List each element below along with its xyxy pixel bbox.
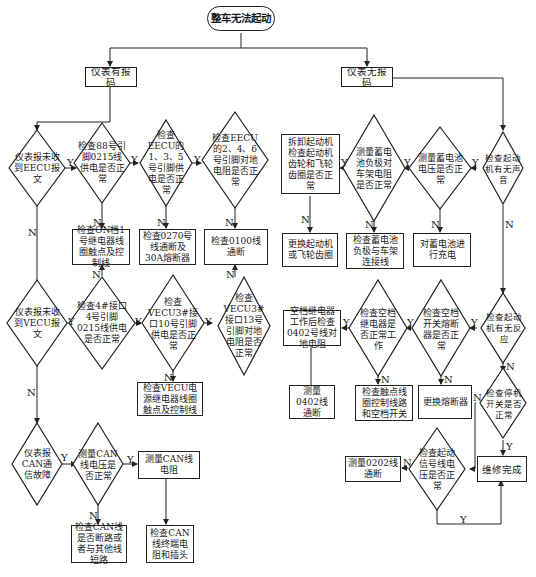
- decision-text: 检查4#接口4号引脚0215线供电是否正常: [73, 301, 131, 345]
- box-can-resistance: 测量CAN线电阻: [138, 451, 200, 479]
- edge-label-n: N: [89, 511, 98, 521]
- edge-label-y: Y: [506, 442, 513, 452]
- decision-88-pin-0215: 检查88号引脚0215线供电是否正常: [74, 138, 130, 188]
- edge-label-y: Y: [127, 455, 134, 465]
- edge-label-n: N: [92, 270, 101, 280]
- edge-label-y: Y: [61, 453, 68, 463]
- start-node-title: 整车无法起动: [207, 6, 275, 31]
- decision-text: 测量蓄电池电压是否正常: [411, 153, 469, 186]
- decision-text: 检查EECU的2、4、6号引脚对地电阻是否正常: [206, 133, 264, 188]
- box-can-terminal: 检查CAN线终端电阻和插头: [146, 525, 194, 563]
- edge-label-y: Y: [67, 158, 74, 168]
- decision-text: 检查VECU3#接口10号引脚供电是否正常: [144, 297, 202, 352]
- decision-text: 测量蓄电池负极对车架电阻是否正常: [350, 147, 398, 191]
- box-can-short: 检查CAN线是否断路或者与其他线短路: [71, 525, 127, 563]
- box-on-relay: 检查ON档1号继电器线圈触点及控制线: [72, 229, 130, 265]
- edge-label-y: Y: [205, 317, 212, 327]
- edge-label-n: N: [403, 458, 412, 468]
- decision-can-voltage: 测量CAN线电压是否正常: [74, 445, 122, 485]
- box-contact-coil: 检查触点线圈控制线路和空档开关: [355, 385, 413, 421]
- edge-label-n: N: [473, 393, 482, 403]
- box-vecu-relay: 检查VECU电源继电器线圈触点及控制线: [137, 382, 203, 416]
- box-battery-negative-link: 检查蓄电池负极与车架连接线: [346, 233, 404, 269]
- flowchart-canvas: 整车无法起动 仪表有报码 仪表无报码 仪表报未收到EECU报文 检查88号引脚0…: [0, 0, 536, 577]
- edge-label-n: N: [505, 220, 514, 230]
- decision-text: 检查起动信号线电压是否正常: [418, 448, 456, 492]
- edge-label-y: Y: [404, 158, 411, 168]
- decision-battery-voltage: 测量蓄电池电压是否正常: [411, 150, 469, 188]
- box-0100: 检查0100线通断: [204, 229, 268, 265]
- edge-label-n: N: [225, 218, 234, 228]
- decision-text: 测量CAN线电压是否正常: [74, 449, 122, 482]
- branch-no-code: 仪表无报码: [341, 67, 393, 87]
- decision-text: 检查88号引脚0215线供电是否正常: [74, 141, 130, 185]
- decision-text: 检查空档开关熔断器是否正常: [416, 308, 466, 352]
- edge-label-n: N: [444, 375, 453, 385]
- edge-label-y: Y: [194, 155, 201, 165]
- edge-label-y: Y: [407, 318, 414, 328]
- decision-vecu-pin13: 检查VECU3#接口13号引脚对地电阻是否正常: [218, 294, 270, 358]
- edge-label-n: N: [164, 373, 173, 383]
- edge-label-y: Y: [471, 318, 478, 328]
- edge-label-y: Y: [341, 158, 348, 168]
- decision-vecu-message: 仪表报未收到VECU报文: [10, 298, 64, 348]
- edge-label-n: N: [301, 215, 310, 225]
- decision-text: 检查空档继电器是否正常工作: [355, 308, 401, 352]
- decision-start-signal: 检查起动信号线电压是否正常: [418, 442, 456, 498]
- decision-text: 仪表报未收到EECU报文: [9, 152, 65, 185]
- decision-text: 仪表报未收到VECU报文: [10, 307, 64, 340]
- box-replace-fuse: 更换熔断器: [418, 385, 472, 419]
- box-0402-resistance: 空档继电器工作后检查0402号线对地电阻: [283, 310, 341, 346]
- decision-starter-sound: 检查起动机有无声音: [484, 150, 522, 188]
- edge-label-n: N: [226, 270, 235, 280]
- edge-label-n: N: [93, 218, 102, 228]
- box-replace-starter: 更换起动机或飞轮齿圈: [282, 233, 338, 267]
- decision-text: 检查停机开关是否正常: [484, 388, 524, 421]
- decision-eecu-message: 仪表报未收到EECU报文: [9, 145, 65, 191]
- decision-battery-negative: 测量蓄电池负极对车架电阻是否正常: [350, 140, 398, 198]
- box-charge-battery: 对蓄电池进行充电: [413, 233, 471, 267]
- edge-label-n: N: [27, 388, 36, 398]
- edge-label-y: Y: [460, 515, 467, 525]
- edge-label-y: Y: [131, 155, 138, 165]
- decision-neutral-fuse: 检查空档开关熔断器是否正常: [416, 305, 466, 355]
- decision-neutral-relay: 检查空档继电器是否正常工作: [355, 305, 401, 355]
- decision-text: 仪表报CAN通信故障: [14, 448, 60, 481]
- box-0270: 检查0270号线通断及30A熔断器: [139, 229, 196, 265]
- edge-label-n: N: [506, 362, 515, 372]
- decision-text: 检查起动机有无声音: [484, 153, 522, 186]
- decision-vecu-pin10: 检查VECU3#接口10号引脚供电是否正常: [144, 297, 202, 351]
- decision-can-fault: 仪表报CAN通信故障: [14, 440, 60, 488]
- branch-has-code: 仪表有报码: [85, 67, 137, 87]
- edge-label-n: N: [381, 375, 390, 385]
- decision-text: 检查EECU的1、3、5号引脚供电是否正常: [140, 130, 192, 196]
- edge-label-n: N: [28, 228, 37, 238]
- decision-eecu-246: 检查EECU的2、4、6号引脚对地电阻是否正常: [206, 125, 264, 195]
- decision-text: 检查VECU3#接口13号引脚对地电阻是否正常: [218, 293, 270, 359]
- edge-label-y: Y: [135, 317, 142, 327]
- end-repair-complete: 维修完成: [477, 456, 527, 482]
- decision-starter-reaction: 检查起动机有无反应: [484, 313, 524, 343]
- edge-label-n: N: [365, 220, 374, 230]
- box-0202-continuity: 测量0202线通断: [345, 456, 401, 482]
- edge-label-y: Y: [472, 158, 479, 168]
- box-0402-continuity: 测量0402线通断: [289, 385, 335, 419]
- decision-eecu-135: 检查EECU的1、3、5号引脚供电是否正常: [140, 130, 192, 196]
- decision-4-pin-0215: 检查4#接口4号引脚0215线供电是否正常: [73, 296, 131, 350]
- edge-label-n: N: [431, 220, 440, 230]
- box-starter-gear: 拆卸起动机检查起动机齿轮和飞轮齿圈是否正常: [281, 134, 340, 194]
- edge-label-n: N: [157, 218, 166, 228]
- decision-text: 检查起动机有无反应: [484, 312, 524, 345]
- decision-stop-switch: 检查停机开关是否正常: [484, 385, 524, 423]
- edge-label-y: Y: [343, 318, 350, 328]
